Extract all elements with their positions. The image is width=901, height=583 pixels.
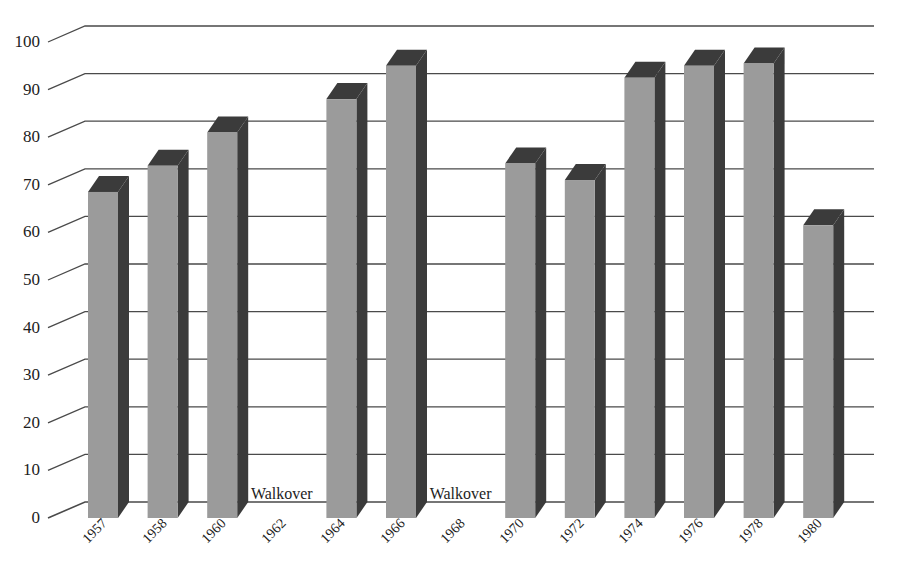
y-tick-label-30: 30: [0, 366, 40, 383]
bar-1970: [505, 163, 535, 518]
bar-side-1960: [237, 116, 248, 518]
bar-1980: [803, 225, 833, 518]
y-tick-label-20: 20: [0, 414, 40, 431]
y-tick-label-0: 0: [0, 509, 40, 526]
bar-1964: [326, 99, 356, 518]
y-tick-label-80: 80: [0, 128, 40, 145]
gridline-100: [48, 26, 874, 42]
bar-1957: [88, 192, 118, 518]
y-tick-label-40: 40: [0, 319, 40, 336]
bar-1972: [565, 180, 595, 518]
y-tick-label-70: 70: [0, 176, 40, 193]
bar-side-1974: [654, 62, 665, 518]
bar-1966: [386, 66, 416, 518]
bar-side-1957: [118, 176, 129, 518]
bar-side-1964: [356, 83, 367, 518]
y-tick-label-50: 50: [0, 271, 40, 288]
bar-1958: [148, 166, 178, 518]
bar-side-1966: [416, 50, 427, 518]
bar-1978: [744, 63, 774, 518]
y-tick-label-90: 90: [0, 81, 40, 98]
annotation-walkover-1968: Walkover: [411, 486, 511, 502]
bar-side-1978: [774, 47, 785, 518]
bar-1974: [624, 78, 654, 518]
bar-1960: [207, 132, 237, 518]
y-tick-label-10: 10: [0, 461, 40, 478]
bar-side-1972: [595, 164, 606, 518]
bars: [88, 47, 844, 518]
bar-1976: [684, 66, 714, 518]
y-tick-label-100: 100: [0, 33, 40, 50]
bar-side-1958: [178, 150, 189, 518]
y-tick-label-60: 60: [0, 223, 40, 240]
bar-chart: 1009080706050403020100 19571958196019621…: [0, 0, 901, 583]
annotation-walkover-1962: Walkover: [232, 486, 332, 502]
bar-side-1976: [714, 50, 725, 518]
bar-side-1970: [535, 147, 546, 518]
bar-side-1980: [833, 209, 844, 518]
